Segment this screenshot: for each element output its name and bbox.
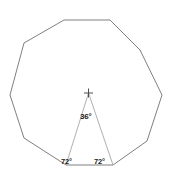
triangle-right-leg <box>89 93 114 165</box>
base-angle-right-label: 72° <box>94 158 105 166</box>
geometry-canvas <box>0 0 173 179</box>
base-angle-left-label: 72° <box>61 158 72 166</box>
geometry-figure: 36° 72° 72° <box>0 0 173 179</box>
triangle-left-leg <box>66 93 89 165</box>
central-angle-label: 36° <box>80 113 92 121</box>
